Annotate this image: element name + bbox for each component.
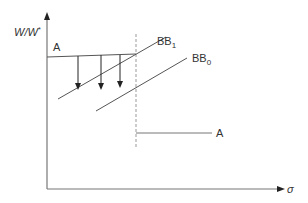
y-axis: [44, 12, 50, 189]
bb1-label: BB1: [157, 35, 177, 50]
upper-a-line: [47, 54, 136, 57]
y-axis-label: W/W*: [14, 26, 41, 38]
diagram-canvas: W/W* σ A A BB1 BB0: [0, 0, 308, 203]
bb0-label: BB0: [192, 52, 212, 67]
down-arrow-icon: [117, 81, 123, 88]
x-axis-arrow-icon: [277, 186, 285, 192]
bb0-line: [96, 58, 187, 111]
y-axis-arrow-icon: [44, 12, 50, 20]
bb1-line: [58, 37, 166, 99]
x-axis-label: σ: [287, 183, 294, 195]
lower-a-label: A: [216, 127, 224, 139]
upper-a-label: A: [53, 41, 61, 53]
x-axis: [47, 186, 285, 192]
down-arrow-icon: [98, 83, 104, 90]
